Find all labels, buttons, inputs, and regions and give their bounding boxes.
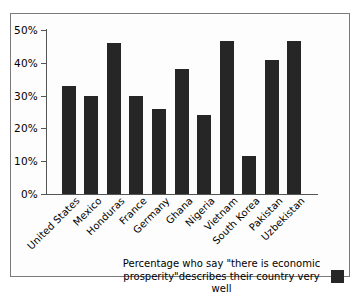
x-axis-labels: United StatesMexicoHondurasFranceGermany… [46,195,317,255]
y-axis-tick-label: 10% [14,155,38,167]
bar-series [46,30,317,194]
bar [152,109,166,194]
legend-label-line-2: prosperity"describes their country very … [123,271,319,295]
bar [84,96,98,194]
bar [107,43,121,194]
y-axis-tick-label: 0% [21,188,38,200]
chart-legend: Percentage who say "there is economic pr… [119,258,344,296]
x-axis-tick-label: United States [25,195,82,252]
bar [62,86,76,194]
bar [220,41,234,194]
bar [197,115,211,194]
legend-label: Percentage who say "there is economic pr… [119,258,324,296]
y-axis-tick-label: 20% [14,122,38,134]
y-axis-tick-label: 30% [14,90,38,102]
legend-color-swatch [331,270,344,283]
y-axis-tick-label: 50% [14,24,38,36]
legend-label-line-1: Percentage who say "there is economic [123,258,320,269]
bar [175,69,189,194]
y-axis-tick-label: 40% [14,57,38,69]
bar [242,156,256,194]
bar [265,60,279,194]
bar [287,41,301,194]
bar [129,96,143,194]
chart-frame: 0%10%20%30%40%50% United StatesMexicoHon… [10,13,350,277]
plot-area: 0%10%20%30%40%50% [46,30,317,194]
